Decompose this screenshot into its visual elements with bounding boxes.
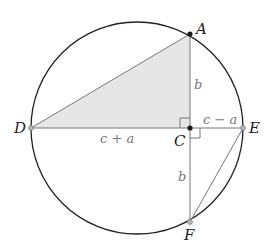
point-a [187, 31, 192, 36]
label-f: F [183, 226, 195, 244]
label-d: D [13, 119, 26, 137]
label-segment-ac: b [194, 77, 202, 92]
label-segment-dc: c + a [100, 131, 134, 146]
geometry-diagram: A D C E F b b c + a c − a [0, 0, 272, 252]
point-c [187, 125, 192, 130]
label-segment-ce: c − a [203, 112, 237, 127]
point-f [188, 220, 193, 225]
segment-ef [190, 128, 243, 222]
label-c: C [174, 132, 186, 150]
label-e: E [248, 119, 260, 137]
point-e [241, 126, 246, 131]
label-segment-cf: b [178, 169, 186, 184]
label-a: A [194, 20, 207, 38]
point-d [29, 126, 34, 131]
